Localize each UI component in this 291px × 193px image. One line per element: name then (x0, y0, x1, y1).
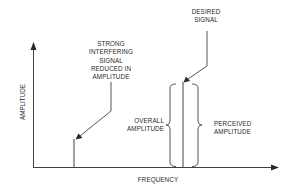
interferer-label: STRONG INTERFERING SIGNAL REDUCED IN AMP… (86, 40, 136, 81)
label-line: REDUCED IN (86, 65, 136, 73)
x-axis-label: FREQUENCY (128, 176, 188, 184)
desired-pointer (184, 31, 208, 83)
label-line: OVERALL (116, 117, 164, 125)
label-line: AMPLITUDE (86, 73, 136, 81)
pointer-arrow-icon (184, 77, 191, 83)
x-axis-arrow-icon (271, 165, 279, 171)
label-line: AMPLITUDE (116, 125, 164, 133)
overall-amplitude-label: OVERALL AMPLITUDE (116, 117, 164, 134)
label-line: INTERFERING (86, 48, 136, 56)
diagram-lines (0, 0, 291, 193)
label-line: SIGNAL (186, 16, 226, 24)
label-line: PERCEIVED (214, 120, 264, 128)
label-line: DESIRED (186, 8, 226, 16)
perceived-amplitude-brace (192, 84, 202, 167)
interferer-pointer (76, 82, 112, 140)
perceived-amplitude-label: PERCEIVED AMPLITUDE (214, 120, 264, 137)
label-line: STRONG (86, 40, 136, 48)
y-axis (31, 42, 37, 167)
label-line: AMPLITUDE (214, 128, 264, 136)
x-axis (33, 165, 279, 171)
label-line: SIGNAL (86, 57, 136, 65)
diagram-canvas: STRONG INTERFERING SIGNAL REDUCED IN AMP… (0, 0, 291, 193)
y-axis-label: AMPLITUDE (19, 82, 27, 122)
overall-amplitude-brace (166, 84, 176, 167)
y-axis-arrow-icon (31, 42, 37, 50)
desired-signal-label: DESIRED SIGNAL (186, 8, 226, 25)
